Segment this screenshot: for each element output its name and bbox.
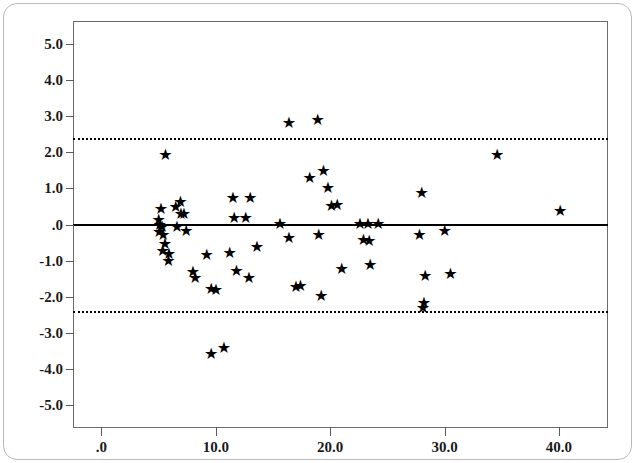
data-point-marker: ★ (158, 147, 172, 163)
data-point-marker: ★ (250, 239, 264, 255)
x-axis-tick (101, 427, 102, 436)
upper-limit-of-agreement (73, 138, 608, 140)
data-point-marker: ★ (321, 180, 335, 196)
y-axis-tick (66, 369, 74, 370)
y-axis-tick (66, 152, 74, 153)
x-axis-tick (330, 427, 331, 436)
x-axis-tick-label: 10.0 (203, 439, 229, 456)
data-point-marker: ★ (217, 340, 231, 356)
data-point-marker: ★ (222, 245, 236, 261)
y-axis-tick-label: -4.0 (11, 361, 63, 378)
y-axis-tick-label: .0 (11, 216, 63, 233)
data-point-marker: ★ (238, 210, 252, 226)
data-point-marker: ★ (362, 233, 376, 249)
data-point-marker: ★ (371, 216, 385, 232)
y-axis-tick (66, 188, 74, 189)
data-point-marker: ★ (312, 227, 326, 243)
y-axis-tick-label: 5.0 (11, 35, 63, 52)
data-point-marker: ★ (437, 223, 451, 239)
data-point-marker: ★ (243, 190, 257, 206)
data-point-marker: ★ (314, 288, 328, 304)
data-point-marker: ★ (282, 230, 296, 246)
data-point-marker: ★ (302, 170, 316, 186)
x-axis-tick (445, 427, 446, 436)
x-axis-tick (559, 427, 560, 436)
figure-container: ★★★★★★★★★★★★★★★★★★★★★★★★★★★★★★★★★★★★★★★★… (0, 0, 635, 463)
data-point-marker: ★ (161, 253, 175, 269)
x-axis-tick-label: 40.0 (546, 439, 572, 456)
data-point-marker: ★ (490, 147, 504, 163)
x-axis-tick (216, 427, 217, 436)
plot-frame: ★★★★★★★★★★★★★★★★★★★★★★★★★★★★★★★★★★★★★★★★… (73, 21, 608, 428)
y-axis-tick-label: -5.0 (11, 397, 63, 414)
data-point-marker: ★ (330, 197, 344, 213)
data-point-marker: ★ (334, 261, 348, 277)
x-axis-tick-label: .0 (96, 439, 107, 456)
y-axis-tick-label: 3.0 (11, 108, 63, 125)
data-point-marker: ★ (443, 266, 457, 282)
data-point-marker: ★ (188, 270, 202, 286)
data-point-marker: ★ (200, 247, 214, 263)
data-point-marker: ★ (416, 300, 430, 316)
y-axis-tick (66, 405, 74, 406)
data-point-marker: ★ (415, 185, 429, 201)
y-axis-tick (66, 116, 74, 117)
data-point-marker: ★ (363, 257, 377, 273)
y-axis-tick (66, 261, 74, 262)
y-axis-tick (66, 297, 74, 298)
x-axis-tick-label: 30.0 (431, 439, 457, 456)
y-axis-tick (66, 225, 74, 226)
y-axis-tick (66, 333, 74, 334)
data-point-marker: ★ (179, 223, 193, 239)
data-point-marker: ★ (316, 163, 330, 179)
y-axis-tick-label: -2.0 (11, 288, 63, 305)
data-point-marker: ★ (553, 203, 567, 219)
data-point-marker: ★ (282, 115, 296, 131)
data-point-marker: ★ (293, 278, 307, 294)
x-axis-tick-label: 20.0 (317, 439, 343, 456)
y-axis-tick-label: -3.0 (11, 324, 63, 341)
y-axis-tick-label: 2.0 (11, 144, 63, 161)
y-axis-tick (66, 80, 74, 81)
data-point-marker: ★ (242, 270, 256, 286)
data-point-marker: ★ (310, 112, 324, 128)
lower-limit-of-agreement (73, 311, 608, 313)
data-point-marker: ★ (412, 227, 426, 243)
y-axis-tick-label: 1.0 (11, 180, 63, 197)
y-axis-tick-label: -1.0 (11, 252, 63, 269)
data-point-marker: ★ (418, 268, 432, 284)
y-axis-tick-label: 4.0 (11, 71, 63, 88)
data-point-marker: ★ (226, 190, 240, 206)
y-axis-tick (66, 44, 74, 45)
data-point-marker: ★ (209, 282, 223, 298)
